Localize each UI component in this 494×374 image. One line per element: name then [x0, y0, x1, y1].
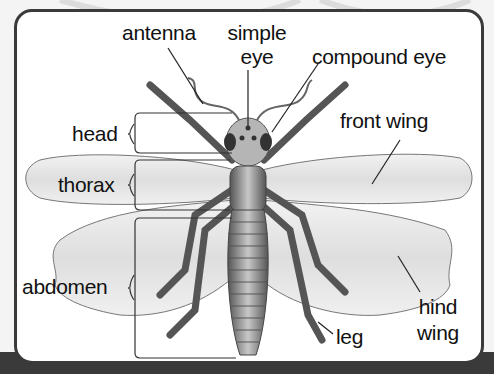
label-hind-wing-line2: wing — [410, 322, 466, 343]
label-abdomen: abdomen — [22, 276, 107, 297]
insect-thorax — [230, 166, 266, 212]
label-simple-eye-line1: simple — [226, 22, 288, 43]
label-compound-eye: compound eye — [312, 46, 446, 67]
insect-abdomen — [228, 210, 268, 355]
label-antenna: antenna — [122, 22, 196, 43]
label-head: head — [72, 123, 118, 144]
label-simple-eye-line2: eye — [226, 46, 288, 67]
label-hind-wing-line1: hind — [410, 296, 466, 317]
front-wing-right — [262, 154, 472, 203]
label-front-wing: front wing — [340, 110, 428, 131]
label-thorax: thorax — [58, 174, 115, 195]
label-leg: leg — [336, 326, 363, 347]
hind-wing-left — [53, 200, 235, 315]
